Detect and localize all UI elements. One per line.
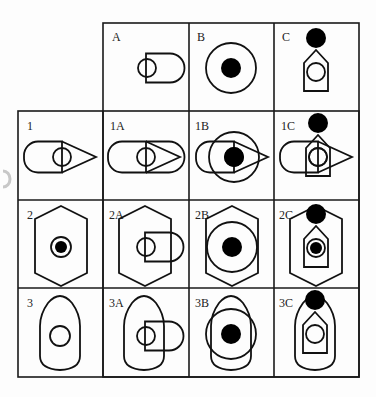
- cell-2B: 2B: [195, 206, 258, 286]
- cell-label-3B: 3B: [195, 296, 209, 310]
- cell-1C: 1C: [280, 113, 352, 176]
- circle-icon: [50, 326, 70, 346]
- cell-label-A: A: [112, 30, 121, 44]
- cell-label-1: 1: [27, 119, 33, 133]
- bullet-shape-icon: [40, 296, 80, 370]
- ring-dot-icon: [209, 132, 259, 182]
- arrow-pill-icon: [108, 142, 180, 173]
- cell-label-2A: 2A: [109, 208, 124, 222]
- ring-dot-icon: [206, 43, 256, 93]
- cell-label-2: 2: [27, 208, 33, 222]
- arrow-pill-icon: [280, 142, 352, 173]
- cell-label-3: 3: [27, 296, 33, 310]
- cell-C: C: [282, 28, 328, 91]
- cell-3C: 3C: [279, 290, 335, 370]
- ring-dot-icon: [206, 309, 256, 359]
- cell-label-1B: 1B: [195, 119, 209, 133]
- cell-B: B: [197, 30, 256, 93]
- ring-dot-icon: [207, 222, 257, 272]
- cell-label-1C: 1C: [281, 119, 295, 133]
- circle-rounded-rect-icon: [138, 54, 185, 83]
- cell-label-3A: 3A: [109, 296, 124, 310]
- circle-rounded-rect-icon: [137, 322, 184, 351]
- cell-3B: 3B: [195, 296, 256, 370]
- arrow-pill-icon: [24, 142, 96, 173]
- double-ring-dot-icon: [51, 237, 71, 257]
- cell-label-1A: 1A: [110, 119, 125, 133]
- cell-label-C: C: [282, 30, 290, 44]
- combination-matrix-diagram: A B C 1 1A 1B 1C 2 2A 2B: [0, 0, 376, 397]
- cell-A: A: [112, 30, 185, 83]
- circle-rounded-rect-icon: [137, 233, 184, 262]
- cell-3: 3: [27, 296, 80, 370]
- cell-2: 2: [27, 206, 87, 286]
- cell-1: 1: [24, 119, 96, 173]
- house-ball-icon: [304, 28, 328, 91]
- house-ball-icon: [303, 290, 327, 353]
- cell-label-2C: 2C: [279, 208, 293, 222]
- cell-1B: 1B: [195, 119, 268, 182]
- cell-label-3C: 3C: [279, 296, 293, 310]
- cell-3A: 3A: [109, 296, 184, 370]
- cell-label-2B: 2B: [195, 208, 209, 222]
- cell-label-B: B: [197, 30, 205, 44]
- house-ball-icon: [304, 204, 328, 267]
- bullet-shape-icon: [124, 296, 164, 370]
- cell-2C: 2C: [279, 204, 342, 286]
- cell-2A: 2A: [109, 206, 184, 286]
- cell-1A: 1A: [108, 119, 185, 173]
- inner-dot-icon: [310, 242, 322, 254]
- margin-artifact: [3, 171, 10, 187]
